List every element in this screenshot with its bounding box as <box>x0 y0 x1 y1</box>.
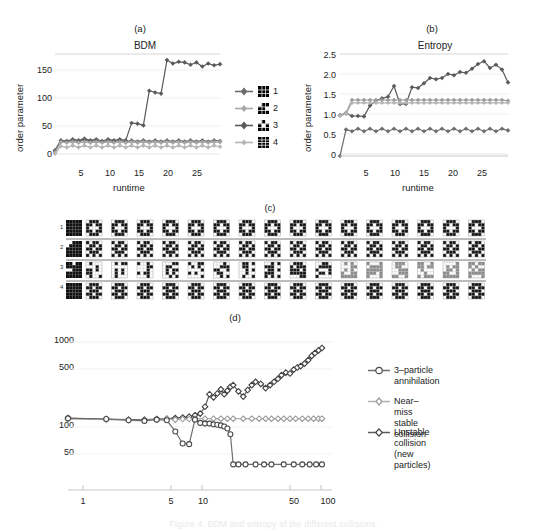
panel-b: (b) Entropy order parameter runtime 2.5 … <box>290 0 539 200</box>
panel-d-xtick-100: 100 <box>316 496 340 506</box>
panel-c-tag: (c) <box>240 202 300 213</box>
legend-item-2[interactable]: 2 <box>234 103 278 114</box>
panel-a-plot <box>55 52 220 167</box>
legend-item-4[interactable]: 4 <box>234 137 278 148</box>
legend-marker-3 <box>234 120 254 131</box>
panel-d-xtick-1: 1 <box>75 496 91 506</box>
panel-a-xtick-25: 25 <box>189 168 205 178</box>
panel-d-xtick-5: 5 <box>163 496 179 506</box>
panel-a-xtick-15: 15 <box>131 168 147 178</box>
panel-b-xtick-20: 20 <box>445 168 461 178</box>
panel-b-tag: (b) <box>402 23 462 34</box>
panel-a-xtick-5: 5 <box>73 168 89 178</box>
panel-d-xtick-10: 10 <box>193 496 213 506</box>
panel-c-automata-grid <box>66 218 486 303</box>
legend-marker-3particle <box>368 365 390 376</box>
panel-c-row-label-3: 3 <box>60 264 63 270</box>
panel-b-ytick-2_5: 2.5 <box>308 50 336 60</box>
panel-a-ytick-150: 150 <box>24 65 52 75</box>
legend-item-3[interactable]: 3 <box>234 120 278 131</box>
legend-ca-icon-4 <box>258 137 269 148</box>
panel-c-row-label-1: 1 <box>60 224 63 230</box>
panel-a-tag: (a) <box>110 23 170 34</box>
panel-a-title: BDM <box>85 40 205 51</box>
legend-label-1: 1 <box>273 86 278 97</box>
legend-label-3: 3 <box>273 120 278 131</box>
legend-item-1[interactable]: 1 <box>234 86 278 97</box>
panel-a-xlabel: runtime <box>113 182 145 193</box>
legend-ca-icon-2 <box>258 103 269 114</box>
panel-a: (a) BDM order parameter runtime 150 100 … <box>0 0 290 200</box>
legend-label-3particle: 3–particle annihilation <box>394 365 440 387</box>
panel-d: (d) 1000 500 100 50 1 5 10 50 100 <box>0 310 539 520</box>
legend-label-unstable: Unstable collision (new particles) <box>394 427 431 471</box>
panel-b-ytick-0: 0 <box>308 150 336 160</box>
panel-d-plot <box>68 332 332 494</box>
panel-b-plot <box>340 52 508 164</box>
legend-label-4: 4 <box>273 137 278 148</box>
panel-b-ytick-1_5: 1.5 <box>308 90 336 100</box>
legend-item-3particle[interactable]: 3–particle annihilation <box>368 365 440 387</box>
legend-marker-1 <box>234 86 254 97</box>
panel-a-ytick-50: 50 <box>24 121 52 131</box>
panel-a-xtick-10: 10 <box>102 168 118 178</box>
panel-b-xtick-5: 5 <box>358 168 374 178</box>
panel-d-xtick-50: 50 <box>284 496 304 506</box>
legend-marker-2 <box>234 103 254 114</box>
legend-marker-unstable <box>368 427 390 438</box>
legend-ca-icon-1 <box>258 86 269 97</box>
panel-b-xtick-10: 10 <box>387 168 403 178</box>
panel-b-ytick-2_0: 2.0 <box>308 70 336 80</box>
panel-b-xtick-25: 25 <box>474 168 490 178</box>
legend-marker-nearmiss <box>368 396 390 407</box>
panel-a-ytick-100: 100 <box>24 93 52 103</box>
panel-b-title: Entropy <box>375 40 495 51</box>
panel-b-ytick-1_0: 1.0 <box>308 110 336 120</box>
panel-c-row-label-4: 4 <box>60 284 63 290</box>
panel-a-xtick-20: 20 <box>160 168 176 178</box>
legend-label-2: 2 <box>273 103 278 114</box>
panel-b-xtick-15: 15 <box>416 168 432 178</box>
panel-b-ytick-0_5: 0.5 <box>308 130 336 140</box>
legend-ca-icon-3 <box>258 120 269 131</box>
panel-b-xlabel: runtime <box>402 182 434 193</box>
panel-c: (c) 1 2 3 4 <box>0 200 539 310</box>
legend-item-unstable[interactable]: Unstable collision (new particles) <box>368 427 431 471</box>
legend-marker-4 <box>234 137 254 148</box>
panel-a-ytick-0: 0 <box>24 149 52 159</box>
panel-c-row-label-2: 2 <box>60 244 63 250</box>
figure-container: (a) BDM order parameter runtime 150 100 … <box>0 0 539 531</box>
figure-caption: Figure 4. BDM and entropy of the differe… <box>64 519 484 530</box>
panel-d-tag: (d) <box>205 312 265 323</box>
